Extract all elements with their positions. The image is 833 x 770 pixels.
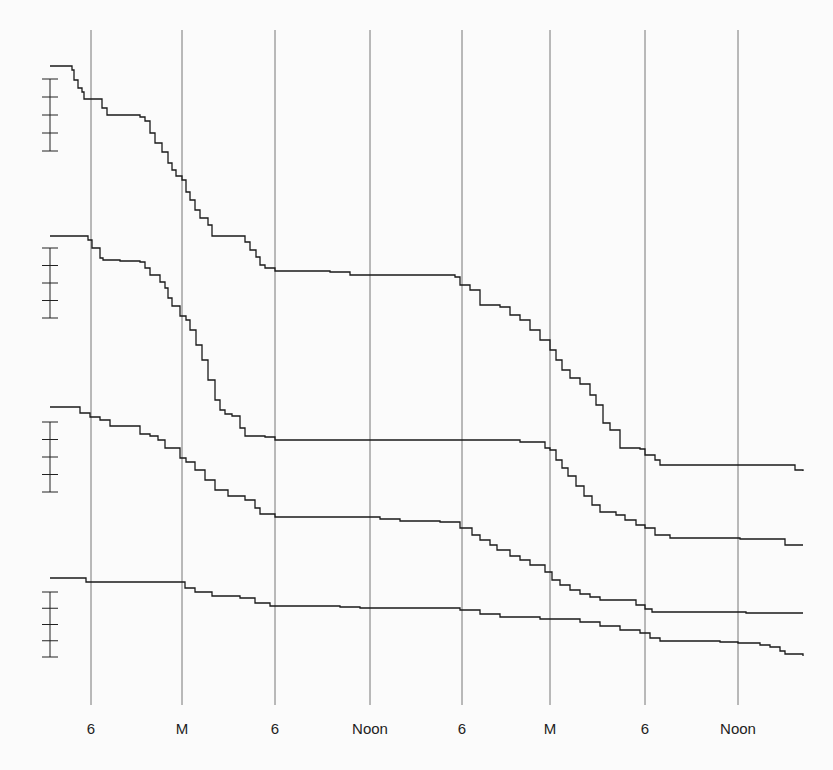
x-tick-label: 6	[271, 720, 279, 737]
scale-bar	[42, 248, 58, 318]
x-tick-label: 6	[641, 720, 649, 737]
scale-bar	[42, 422, 58, 492]
x-tick-label: Noon	[352, 720, 388, 737]
x-tick-label: 6	[458, 720, 466, 737]
scale-bar	[42, 592, 58, 657]
scale-bars	[42, 79, 58, 657]
x-tick-label: M	[544, 720, 557, 737]
step-curve	[50, 578, 803, 656]
step-curve	[50, 236, 803, 545]
x-tick-label: 6	[87, 720, 95, 737]
x-tick-label: Noon	[720, 720, 756, 737]
data-curves	[50, 66, 803, 656]
vertical-gridlines	[91, 30, 738, 705]
step-curve	[50, 66, 803, 471]
scale-bar	[42, 79, 58, 151]
step-chart	[0, 0, 833, 770]
x-tick-label: M	[176, 720, 189, 737]
